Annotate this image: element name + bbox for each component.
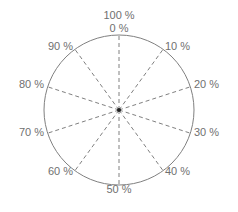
- percent-label: 80 %: [19, 78, 44, 90]
- percent-dial-diagram: 100 %0 %10 %20 %30 %40 %50 %60 %70 %80 %…: [0, 0, 238, 212]
- percent-label: 40 %: [165, 165, 190, 177]
- percent-label: 100 %: [103, 9, 134, 21]
- percent-label: 30 %: [194, 126, 219, 138]
- spoke-10: [119, 49, 163, 110]
- spoke-80: [48, 87, 119, 110]
- spoke-20: [119, 87, 190, 110]
- spoke-30: [119, 110, 190, 133]
- percent-label: 10 %: [165, 40, 190, 52]
- spoke-60: [75, 110, 119, 171]
- percent-label: 0 %: [110, 22, 129, 34]
- percent-label: 70 %: [19, 126, 44, 138]
- spoke-90: [75, 49, 119, 110]
- center-point: [117, 108, 121, 112]
- percent-label: 90 %: [48, 40, 73, 52]
- spoke-40: [119, 110, 163, 171]
- percent-label: 60 %: [48, 165, 73, 177]
- percent-label: 20 %: [194, 78, 219, 90]
- percent-label: 50 %: [106, 183, 131, 195]
- spoke-70: [48, 110, 119, 133]
